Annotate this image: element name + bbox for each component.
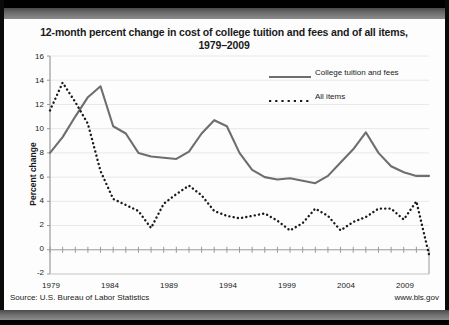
footer-source: Source: U.S. Bureau of Labor Statistics xyxy=(10,293,149,302)
decorative-band-bottom xyxy=(0,310,449,320)
outer-frame-right xyxy=(445,0,449,325)
footer-website: www.bls.gov xyxy=(395,293,439,302)
outer-frame-top xyxy=(0,0,449,8)
chart-sheet: 12-month percent change in cost of colle… xyxy=(4,19,445,310)
chart-screenshot: 12-month percent change in cost of colle… xyxy=(0,0,449,325)
outer-frame-bottom xyxy=(0,320,449,325)
decorative-band-top xyxy=(0,8,449,19)
series-line-college-tuition xyxy=(50,86,429,183)
plot-area xyxy=(4,19,445,289)
